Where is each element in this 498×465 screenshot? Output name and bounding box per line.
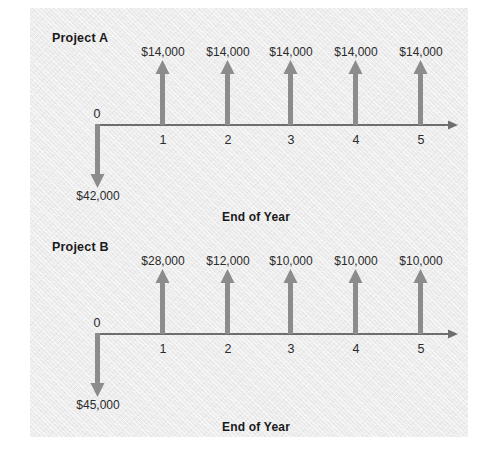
project-b-inflow-arrow-year-5 xyxy=(414,269,428,334)
project-a-inflow-arrow-year-3 xyxy=(284,60,298,125)
project-b-inflow-arrow-year-3 xyxy=(284,269,298,334)
project-b-graphics xyxy=(30,215,468,430)
project-b-outflow-arrow-year-0 xyxy=(91,333,105,397)
project-b-inflow-arrow-year-4 xyxy=(349,269,363,334)
project-a-inflow-arrow-year-4 xyxy=(349,60,363,125)
project-a-inflow-arrow-year-1 xyxy=(156,60,170,125)
cash-flow-diagram-project-b: Project B $28,000 $12,000 $10,000 $10,00… xyxy=(30,215,468,430)
project-a-axis-arrowhead xyxy=(448,121,458,130)
cash-flow-diagram-project-a: Project A $14,000 $14,000 $14,000 $14,00… xyxy=(30,8,468,223)
project-a-inflow-arrow-year-2 xyxy=(221,60,235,125)
figure-panel: Project A $14,000 $14,000 $14,000 $14,00… xyxy=(30,8,468,437)
project-a-inflow-arrow-year-5 xyxy=(414,60,428,125)
project-b-axis-arrowhead xyxy=(448,330,458,339)
project-b-inflow-arrow-year-2 xyxy=(221,269,235,334)
project-b-inflow-arrow-year-1 xyxy=(156,269,170,334)
project-a-outflow-arrow-year-0 xyxy=(91,124,105,188)
project-a-graphics xyxy=(30,8,468,223)
